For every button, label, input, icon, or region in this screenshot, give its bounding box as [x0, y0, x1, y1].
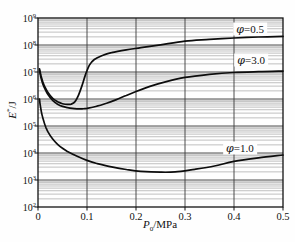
svg-text:104: 104	[23, 147, 37, 159]
y-axis-variable: E	[6, 112, 18, 119]
y-tick-labels: 102103104105106107108109	[23, 12, 37, 213]
phi-symbol: φ	[226, 141, 234, 154]
svg-text:107: 107	[23, 66, 37, 78]
curve-label-phi-0.5: φ=0.5	[233, 23, 267, 36]
plot-area: 00.10.20.30.40.5 10210310410510610710810…	[0, 0, 295, 242]
svg-text:0: 0	[35, 211, 40, 222]
x-axis-title: P0/MPa	[143, 218, 177, 230]
svg-text:0.2: 0.2	[129, 211, 142, 222]
curve-label-phi-3.0: φ=3.0	[234, 53, 268, 66]
x-axis-variable: P	[143, 218, 150, 230]
svg-text:109: 109	[23, 12, 36, 24]
phi-value: =0.5	[244, 23, 264, 35]
svg-text:106: 106	[23, 93, 37, 105]
phi-symbol: φ	[236, 23, 244, 36]
svg-text:108: 108	[23, 39, 36, 51]
phi-symbol: φ	[237, 53, 245, 66]
log-line-chart: 00.10.20.30.40.5 10210310410510610710810…	[0, 0, 295, 242]
svg-text:0.3: 0.3	[178, 211, 191, 222]
svg-text:103: 103	[23, 174, 36, 186]
y-axis-title: E*/J	[6, 101, 18, 119]
phi-value: =1.0	[234, 141, 254, 153]
svg-text:0.4: 0.4	[227, 211, 241, 222]
svg-text:0.1: 0.1	[80, 211, 93, 222]
x-axis-unit: /MPa	[153, 218, 177, 230]
y-axis-unit: /J	[6, 101, 18, 108]
curve-label-phi-1.0: φ=1.0	[223, 141, 257, 154]
phi-value: =3.0	[245, 53, 265, 65]
svg-text:0.5: 0.5	[276, 211, 289, 222]
svg-text:105: 105	[23, 120, 36, 132]
svg-text:102: 102	[23, 201, 36, 213]
axis-ticks	[35, 18, 284, 211]
y-axis-superscript: *	[5, 109, 13, 113]
